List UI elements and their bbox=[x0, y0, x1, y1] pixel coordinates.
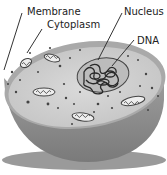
label-dna: DNA bbox=[137, 35, 159, 46]
membrane-leader bbox=[4, 13, 22, 70]
label-cytoplasm: Cytoplasm bbox=[47, 19, 100, 30]
label-membrane: Membrane bbox=[27, 6, 81, 17]
label-nucleus: Nucleus bbox=[124, 6, 164, 17]
mitochondrion bbox=[33, 88, 55, 96]
cytoplasm-leader bbox=[27, 29, 42, 53]
cell-diagram: Membrane Cytoplasm Nucleus DNA bbox=[0, 0, 167, 175]
